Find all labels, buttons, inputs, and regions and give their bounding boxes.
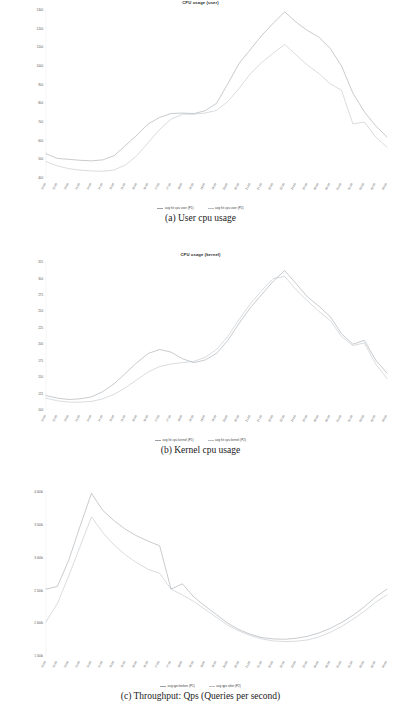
x-axis-tick-label: 15:30 bbox=[119, 414, 126, 422]
y-axis-tick-label: 1000 bbox=[37, 64, 44, 68]
y-axis-tick-label: 250 bbox=[38, 309, 43, 313]
x-axis-tick-label: 21:00 bbox=[245, 414, 252, 422]
x-axis-tick-label: 19:00 bbox=[199, 182, 206, 190]
x-axis-tick-label: 14:00 bbox=[85, 660, 92, 668]
x-axis-tick-label: 16:30 bbox=[142, 182, 149, 190]
x-axis-tick-label: 18:00 bbox=[176, 414, 183, 422]
x-axis-tick-label: 18:00 bbox=[176, 182, 183, 190]
x-axis-tick-label: 00:30 bbox=[324, 182, 331, 190]
x-axis-tick-label: 22:30 bbox=[279, 182, 286, 190]
y-axis-tick-label: 600 bbox=[38, 139, 43, 143]
x-axis-tick-label: 21:30 bbox=[256, 660, 263, 668]
legend-item: avg hit cpu kernel (P2) bbox=[208, 438, 246, 442]
x-axis-tick-label: 20:00 bbox=[222, 182, 229, 190]
x-axis-tick-label: 12:00 bbox=[40, 414, 47, 422]
y-axis-tick-label: 300 bbox=[38, 277, 43, 281]
x-axis-tick-label: 02:00 bbox=[358, 414, 365, 422]
x-axis-tick-label: 19:30 bbox=[210, 182, 217, 190]
x-axis-tick-label: 16:30 bbox=[142, 660, 149, 668]
y-axis-tick-label: 1200 bbox=[37, 27, 44, 31]
x-axis-tick-label: 23:00 bbox=[290, 182, 297, 190]
legend-item: avg hit cpu user (P2) bbox=[208, 206, 244, 210]
legend-b: avg hit cpu kernel (P1) avg hit cpu kern… bbox=[0, 436, 401, 444]
x-axis-tick-label: 19:30 bbox=[210, 414, 217, 422]
x-axis-tick-label: 22:00 bbox=[267, 414, 274, 422]
y-axis-tick-label: 325 bbox=[38, 260, 43, 264]
x-axis-tick-label: 21:00 bbox=[245, 660, 252, 668]
x-axis-tick-label: 22:00 bbox=[267, 660, 274, 668]
x-axis-tick-label: 02:30 bbox=[370, 182, 377, 190]
x-axis-tick-label: 17:30 bbox=[165, 414, 172, 422]
y-axis-tick-label: 900 bbox=[38, 83, 43, 87]
document-page: CPU usage (user) 13001200110010009008007… bbox=[0, 0, 401, 719]
x-axis-tick-label: 16:00 bbox=[131, 182, 138, 190]
x-axis-tick-label: 15:00 bbox=[108, 660, 115, 668]
figure-caption-c: (c) Throughput: Qps (Queries per second) bbox=[0, 690, 401, 703]
x-axis-tick-label: 15:00 bbox=[108, 414, 115, 422]
x-axis-tick-label: 14:30 bbox=[97, 660, 104, 668]
x-axis-tick-label: 18:30 bbox=[188, 414, 195, 422]
x-axis-tick-label: 23:30 bbox=[301, 182, 308, 190]
y-axis-tick-label: 2 000k bbox=[34, 621, 43, 625]
x-axis-tick-label: 02:30 bbox=[370, 414, 377, 422]
figure-caption-b: (b) Kernel cpu usage bbox=[0, 444, 401, 457]
x-axis-tick-label: 01:00 bbox=[335, 414, 342, 422]
x-axis-tick-label: 02:00 bbox=[358, 182, 365, 190]
legend-label: avg hit cpu kernel (P1) bbox=[163, 438, 194, 442]
x-axis-tick-label: 19:30 bbox=[210, 660, 217, 668]
x-axis-tick-label: 17:00 bbox=[154, 660, 161, 668]
x-axis-tick-label: 13:00 bbox=[63, 414, 70, 422]
x-axis-tick-label: 03:00 bbox=[381, 414, 388, 422]
legend-item: avg hit cpu kernel (P1) bbox=[155, 438, 193, 442]
x-axis-tick-label: 16:00 bbox=[131, 414, 138, 422]
line-chart-b: 32530027525022520017515012510012:0012:30… bbox=[0, 258, 401, 436]
x-axis-tick-label: 20:00 bbox=[222, 660, 229, 668]
legend-item: avg qps after (P2) bbox=[209, 684, 241, 688]
x-axis-tick-label: 23:00 bbox=[290, 660, 297, 668]
x-axis-tick-label: 00:00 bbox=[313, 182, 320, 190]
x-axis-tick-label: 02:00 bbox=[358, 660, 365, 668]
y-axis-tick-label: 700 bbox=[38, 120, 43, 124]
figure-caption-a: (a) User cpu usage bbox=[0, 212, 401, 225]
legend-label: avg hit cpu user (P2) bbox=[215, 206, 244, 210]
x-axis-tick-label: 19:00 bbox=[199, 660, 206, 668]
legend-swatch bbox=[208, 440, 214, 441]
y-axis-tick-label: 275 bbox=[38, 293, 43, 297]
legend-swatch bbox=[208, 208, 214, 209]
x-axis-tick-label: 23:00 bbox=[290, 414, 297, 422]
y-axis-tick-label: 225 bbox=[38, 326, 43, 330]
data-series-line bbox=[46, 517, 387, 642]
x-axis-tick-label: 20:00 bbox=[222, 414, 229, 422]
x-axis-tick-label: 21:00 bbox=[245, 182, 252, 190]
legend-swatch bbox=[209, 686, 215, 687]
y-axis-tick-label: 3 500k bbox=[34, 523, 43, 527]
y-axis-tick-label: 4 000k bbox=[34, 490, 43, 494]
legend-c: avg qps before (P1) avg qps after (P2) bbox=[0, 682, 401, 690]
y-axis-tick-label: 100 bbox=[38, 408, 43, 412]
x-axis-tick-label: 03:00 bbox=[381, 660, 388, 668]
x-axis-tick-label: 12:00 bbox=[40, 182, 47, 190]
x-axis-tick-label: 14:30 bbox=[97, 182, 104, 190]
figure-b: CPU usage (kernel) 325300275250225200175… bbox=[0, 252, 401, 480]
y-axis-tick-label: 150 bbox=[38, 375, 43, 379]
y-axis-tick-label: 125 bbox=[38, 392, 43, 396]
x-axis-tick-label: 17:30 bbox=[165, 660, 172, 668]
x-axis-tick-label: 13:30 bbox=[74, 660, 81, 668]
x-axis-tick-label: 18:30 bbox=[188, 660, 195, 668]
data-series-line bbox=[46, 45, 387, 172]
y-axis-tick-label: 500 bbox=[38, 157, 43, 161]
x-axis-tick-label: 14:30 bbox=[97, 414, 104, 422]
x-axis-tick-label: 21:30 bbox=[256, 414, 263, 422]
x-axis-tick-label: 01:30 bbox=[347, 182, 354, 190]
data-series-line bbox=[46, 12, 387, 161]
x-axis-tick-label: 14:00 bbox=[85, 182, 92, 190]
x-axis-tick-label: 01:00 bbox=[335, 182, 342, 190]
data-series-line bbox=[46, 271, 387, 400]
x-axis-tick-label: 17:00 bbox=[154, 414, 161, 422]
x-axis-tick-label: 16:00 bbox=[131, 660, 138, 668]
x-axis-tick-label: 13:30 bbox=[74, 182, 81, 190]
x-axis-tick-label: 13:30 bbox=[74, 414, 81, 422]
x-axis-tick-label: 12:00 bbox=[40, 660, 47, 668]
figure-a: CPU usage (user) 13001200110010009008007… bbox=[0, 0, 401, 252]
legend-label: avg qps before (P1) bbox=[168, 684, 195, 688]
